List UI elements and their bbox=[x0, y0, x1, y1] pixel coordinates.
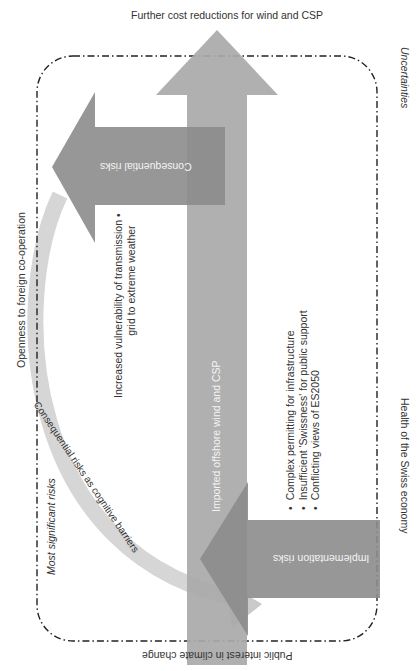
implementation-bullet: Conflicting views of ES2050 bbox=[309, 310, 322, 510]
right-driver-label: Health of the Swiss economy bbox=[400, 398, 411, 533]
implementation-risks-label: Implementation risks bbox=[273, 553, 369, 564]
main-arrow-label: Imported offshore wind and CSP bbox=[211, 360, 222, 512]
top-driver-label: Further cost reductions for wind and CSP bbox=[131, 10, 323, 21]
implementation-bullet: Complex permitting for infrastructure bbox=[284, 310, 297, 510]
left-driver-label: Openness to foreign co-operation bbox=[16, 212, 27, 368]
uncertainties-label: Uncertainties bbox=[400, 47, 411, 108]
bottom-driver-label: Public interest in climate change bbox=[142, 650, 293, 661]
consequential-bullet-line-1: Increased vulnerability of transmission bbox=[112, 220, 124, 398]
consequential-bullet-line-2: grid to extreme weather bbox=[125, 225, 137, 335]
boundary-label: Most significant risks bbox=[46, 478, 57, 575]
implementation-bullets: Complex permitting for infrastructure In… bbox=[284, 310, 322, 510]
diagram-canvas bbox=[0, 0, 419, 671]
implementation-bullet: Insufficient 'Swissness' for public supp… bbox=[297, 310, 310, 510]
consequential-bullets: Increased vulnerability of transmission … bbox=[112, 213, 137, 398]
consequential-risks-label: Consequential risks bbox=[100, 161, 192, 172]
